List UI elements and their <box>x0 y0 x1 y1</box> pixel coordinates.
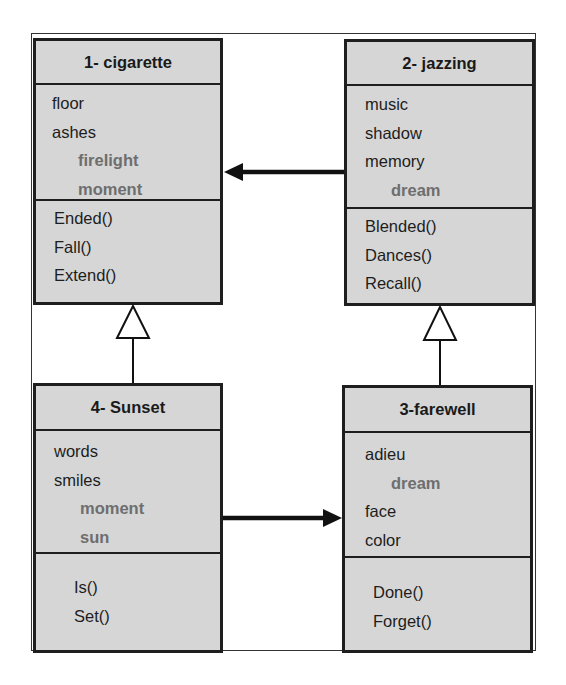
generalization-arrow-farewell-to-jazzing <box>424 307 456 385</box>
relationship-lines <box>0 0 566 685</box>
association-arrow-sunset-to-farewell <box>223 509 342 527</box>
association-arrow-jazzing-to-cigarette <box>224 163 344 181</box>
generalization-arrow-sunset-to-cigarette <box>117 306 149 383</box>
